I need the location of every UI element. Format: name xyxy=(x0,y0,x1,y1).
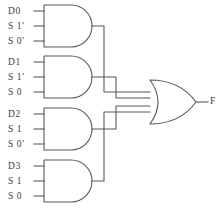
and-gate-2-input-label-0: D1 xyxy=(8,58,21,68)
circuit-diagram-canvas: D0 S 1' S 0' D1 S 1' S 0 D2 S 1 S 0' D3 … xyxy=(0,0,220,208)
and-gate-3-input-stubs xyxy=(34,114,44,144)
and-gate-1-input-label-0: D0 xyxy=(8,7,21,17)
and-gate-1-input-label-2: S 0' xyxy=(8,37,25,47)
and-gate-1-output-wire xyxy=(92,26,150,92)
and-gate-3-output-wire xyxy=(92,106,150,129)
and-gate-3-input-label-1: S 1 xyxy=(8,125,22,135)
and-gate-1-input-stubs xyxy=(34,11,44,41)
and-gate-2-input-stubs xyxy=(34,62,44,92)
and-gate-4-body xyxy=(44,160,92,202)
and-gate-4-input-label-2: S 0 xyxy=(8,192,22,202)
circuit-schematic-svg xyxy=(0,0,220,208)
and-gate-2-output-wire xyxy=(92,77,150,98)
and-gate-3-input-label-2: S 0' xyxy=(8,140,25,150)
output-label-f: F xyxy=(210,97,215,107)
and-gate-4-output-wire xyxy=(92,112,150,181)
and-gate-4-input-label-0: D3 xyxy=(8,162,21,172)
and-gate-3-body xyxy=(44,108,92,150)
and-gate-3-input-label-0: D2 xyxy=(8,110,21,120)
or-gate-body xyxy=(150,80,196,124)
and-gate-4-input-label-1: S 1 xyxy=(8,177,22,187)
and-gate-2-body xyxy=(44,56,92,98)
and-gate-2-input-label-1: S 1' xyxy=(8,73,25,83)
and-gate-2-input-label-2: S 0 xyxy=(8,88,22,98)
and-gate-4-input-stubs xyxy=(34,166,44,196)
and-gate-1-body xyxy=(44,5,92,47)
and-gate-1-input-label-1: S 1' xyxy=(8,22,25,32)
